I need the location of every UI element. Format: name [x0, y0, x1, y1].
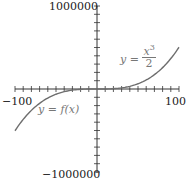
equation-left: y = f(x) — [38, 104, 79, 115]
x-max-label: 100 — [165, 96, 186, 107]
eq-right-prefix: y = — [120, 53, 142, 66]
eq-right-den: 2 — [142, 58, 155, 69]
x-min-label: −100 — [2, 96, 32, 107]
eq-right-numerator: x3 — [142, 44, 155, 58]
y-max-label: 1000000 — [49, 1, 98, 12]
y-min-label: −1000000 — [42, 169, 100, 180]
eq-right-fraction: x3 2 — [142, 44, 155, 69]
equation-right: y = x3 2 — [120, 48, 156, 73]
eq-right-exp: 3 — [150, 43, 155, 52]
cubic-function-chart — [0, 0, 190, 182]
